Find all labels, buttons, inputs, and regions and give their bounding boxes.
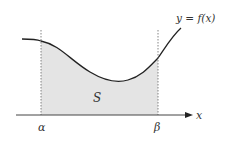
beta-label: β bbox=[153, 121, 160, 134]
region-label: S bbox=[93, 91, 101, 105]
curve-label: y = f(x) bbox=[175, 12, 215, 24]
alpha-label: α bbox=[38, 121, 46, 134]
x-axis-label: x bbox=[196, 109, 203, 122]
x-axis-arrow-icon bbox=[185, 112, 193, 118]
area-under-curve-diagram: x α β S y = f(x) bbox=[0, 0, 230, 145]
